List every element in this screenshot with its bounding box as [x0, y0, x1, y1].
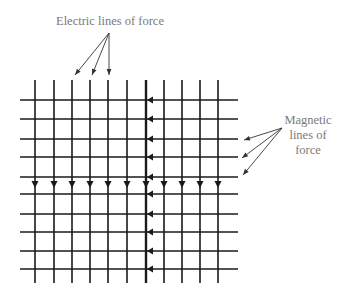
left-arrow-icon: [147, 266, 153, 273]
magnetic-label-pointer: [242, 128, 282, 158]
left-arrow-icon: [147, 229, 153, 236]
down-arrow-icon: [124, 181, 131, 188]
left-arrow-icon: [147, 211, 153, 218]
down-arrow-icon: [105, 181, 112, 188]
down-arrow-icon: [215, 181, 222, 188]
down-arrow-icon: [87, 181, 94, 188]
down-arrow-icon: [51, 181, 58, 188]
left-arrow-icon: [147, 174, 153, 181]
left-arrow-icon: [147, 154, 153, 161]
magnetic-label-line-1: Magnetic: [282, 113, 334, 128]
electric-label-pointer: [75, 33, 109, 75]
pointer-arrowhead-icon: [92, 69, 96, 75]
magnetic-label-line-3: force: [282, 143, 334, 158]
down-arrow-icon: [161, 181, 168, 188]
left-arrow-icon: [147, 248, 153, 255]
electric-label-pointer: [92, 33, 109, 75]
magnetic-label-pointer: [243, 128, 282, 175]
left-arrow-icon: [147, 191, 153, 198]
left-arrow-icon: [147, 116, 153, 123]
left-arrow-icon: [147, 136, 153, 143]
electric-lines-label: Electric lines of force: [56, 14, 164, 29]
magnetic-lines-label: Magnetic lines of force: [282, 113, 334, 158]
magnetic-label-line-2: lines of: [282, 128, 334, 143]
down-arrow-icon: [143, 181, 150, 188]
down-arrow-icon: [197, 181, 204, 188]
left-arrow-icon: [147, 97, 153, 104]
pointer-arrowhead-icon: [244, 136, 250, 141]
down-arrow-icon: [69, 181, 76, 188]
down-arrow-icon: [179, 181, 186, 188]
pointer-arrowhead-icon: [242, 152, 248, 158]
down-arrow-icon: [32, 181, 39, 188]
pointer-arrowhead-icon: [107, 69, 112, 75]
